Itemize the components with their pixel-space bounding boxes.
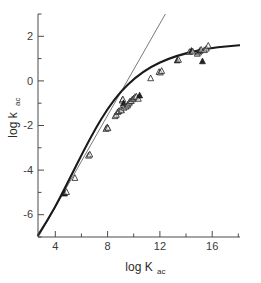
y-tick-label: -6	[23, 208, 33, 220]
x-axis-title-text: log K	[125, 260, 152, 274]
scatter-plot: 2 0 -2 -4 -6 4 8 12 16 log k ac log K ac	[0, 0, 261, 283]
plot-background	[0, 0, 261, 283]
y-tick-label: -4	[23, 164, 33, 176]
x-tick-label: 16	[206, 240, 218, 252]
y-tick-label: -2	[23, 119, 33, 131]
y-tick-label: 0	[27, 75, 33, 87]
y-axis-title-text: log k	[6, 111, 20, 137]
x-tick-label: 12	[154, 240, 166, 252]
chart-figure: 2 0 -2 -4 -6 4 8 12 16 log k ac log K ac	[0, 0, 261, 283]
x-tick-label: 8	[105, 240, 111, 252]
x-axis-title-subscript: ac	[157, 267, 165, 276]
x-tick-label: 4	[52, 240, 58, 252]
y-axis-title-subscript: ac	[13, 98, 22, 106]
y-tick-label: 2	[27, 30, 33, 42]
